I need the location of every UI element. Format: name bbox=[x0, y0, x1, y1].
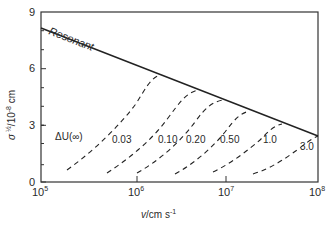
delta-u-curves bbox=[67, 75, 318, 174]
svg-text:107: 107 bbox=[218, 185, 234, 198]
svg-text:108: 108 bbox=[309, 185, 325, 198]
curve-1.0 bbox=[213, 124, 282, 172]
curve-0.20 bbox=[137, 100, 223, 173]
y-tick-3: 3 bbox=[29, 119, 35, 131]
label-1.0: 1.0 bbox=[263, 134, 277, 145]
x-axis-title: v/cm s-1 bbox=[141, 208, 176, 220]
y-axis-title: σ½/10-8 cm bbox=[5, 90, 17, 140]
curve-0.10 bbox=[107, 90, 198, 173]
label-0.50: 0.50 bbox=[220, 134, 240, 145]
label-0.10: 0.10 bbox=[158, 134, 178, 145]
svg-text:105: 105 bbox=[32, 185, 48, 198]
curve-0.03 bbox=[67, 75, 160, 170]
chart: 0 3 6 9 105 106 107 108 v/cm s-1 σ½/10-8… bbox=[0, 0, 335, 227]
x-tick-1e8: 108 bbox=[309, 185, 325, 198]
resonant-label: Resonant bbox=[47, 25, 96, 53]
delta-u-label: ΔU(∞) bbox=[55, 131, 83, 142]
label-3.0: 3.0 bbox=[300, 141, 314, 152]
y-tick-9: 9 bbox=[29, 6, 35, 18]
x-tick-1e6: 106 bbox=[128, 185, 144, 198]
svg-text:106: 106 bbox=[128, 185, 144, 198]
label-0.03: 0.03 bbox=[112, 134, 132, 145]
label-0.20: 0.20 bbox=[186, 134, 206, 145]
y-tick-6: 6 bbox=[29, 62, 35, 74]
y-axis-ticks bbox=[41, 31, 46, 182]
x-tick-1e5: 105 bbox=[32, 185, 48, 198]
x-axis-ticks bbox=[137, 176, 226, 182]
x-tick-1e7: 107 bbox=[218, 185, 234, 198]
